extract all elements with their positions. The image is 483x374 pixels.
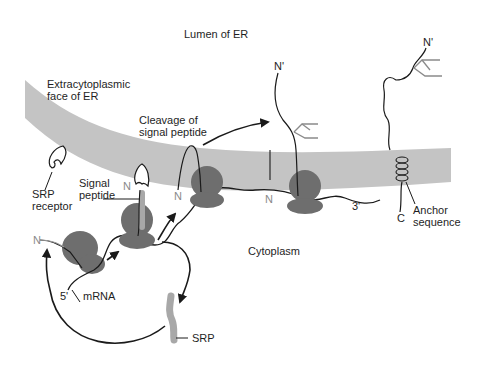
label-srp: SRP: [192, 332, 215, 344]
label-n-prime-1: N': [274, 60, 284, 72]
label-signal-1: Signal: [79, 177, 110, 189]
anchor-pointer: [406, 182, 415, 204]
mrna-strand: [68, 188, 380, 290]
free-srp: [170, 296, 174, 340]
label-anchor-1: Anchor: [413, 204, 448, 216]
label-n-srp: N: [123, 180, 131, 192]
arrow-to-ribosome-2: [107, 252, 118, 260]
ribosome-4: [287, 170, 323, 214]
srp-receptor-icon: [49, 146, 66, 168]
label-cleavage-1: Cleavage of: [139, 114, 198, 126]
label-five-prime: 5': [60, 290, 68, 302]
label-lumen: Lumen of ER: [184, 28, 248, 40]
ribosome-2: [119, 203, 155, 249]
label-n-cleaved: N: [265, 193, 273, 205]
glycan-branch-1: [294, 124, 318, 138]
label-three-prime: 3': [352, 200, 360, 212]
mature-protein-chain: [384, 48, 426, 150]
arrow-srp-release: [162, 242, 190, 302]
label-cleavage-2: signal peptide: [139, 126, 207, 138]
label-extracytoplasmic-1: Extracytoplasmic: [47, 78, 130, 90]
ribosome-1: [62, 231, 105, 274]
label-srp-receptor-2: receptor: [32, 200, 72, 212]
label-n-ribosome1: N: [33, 234, 41, 246]
label-n-prime-2: N': [423, 36, 433, 48]
glycan-branch-2: [414, 60, 442, 76]
label-extracytoplasmic-2: face of ER: [47, 90, 98, 102]
label-mrna: mRNA: [83, 290, 115, 302]
label-srp-receptor-1: SRP: [32, 188, 55, 200]
label-signal-2: peptide: [79, 189, 115, 201]
er-translocation-diagram: [0, 0, 483, 374]
label-cytoplasm: Cytoplasm: [248, 245, 300, 257]
label-n-loop: N: [174, 190, 182, 202]
arrow-to-ribosome-3: [158, 214, 175, 240]
label-c-terminus: C: [397, 212, 405, 224]
ribosome-3: [190, 166, 224, 208]
label-anchor-2: sequence: [413, 216, 461, 228]
arrow-cleavage: [203, 122, 268, 145]
